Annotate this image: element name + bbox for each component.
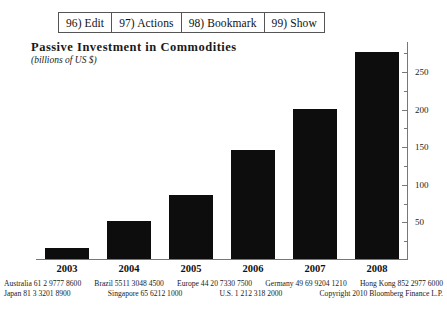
y-tick-label: 150 <box>415 142 429 152</box>
y-tick-minor <box>404 128 408 129</box>
y-tick-label: 100 <box>415 180 429 190</box>
y-axis-line <box>407 42 408 260</box>
bloomberg-chart-screen: 96) Edit 97) Actions 98) Bookmark 99) Sh… <box>0 0 447 310</box>
x-axis-line <box>36 259 408 260</box>
bar-2008 <box>355 52 399 259</box>
y-tick-major <box>402 72 408 73</box>
footer-contact: Singapore 65 6212 1000 <box>108 289 182 299</box>
y-tick-minor <box>404 53 408 54</box>
footer-contact: Hong Kong 852 2977 6000 <box>360 279 443 289</box>
bar-2004 <box>107 221 151 259</box>
footer-contact: U.S. 1 212 318 2000 <box>219 289 282 299</box>
y-tick-major <box>402 222 408 223</box>
footer-contact: Copyright 2010 Bloomberg Finance L.P. <box>320 289 443 299</box>
bar-2007 <box>293 109 337 259</box>
x-tick-label-2006: 2006 <box>222 263 284 274</box>
x-tick-label-2003: 2003 <box>36 263 98 274</box>
footer-line-2: Japan 81 3 3201 8900Singapore 65 6212 10… <box>0 289 447 299</box>
toolbar: 96) Edit 97) Actions 98) Bookmark 99) Sh… <box>58 12 325 33</box>
x-tick-label-2007: 2007 <box>284 263 346 274</box>
footer-contact: Brazil 5511 3048 4500 <box>94 279 164 289</box>
footer-line-1: Australia 61 2 9777 8600Brazil 5511 3048… <box>0 279 447 289</box>
footer-contact: Japan 81 3 3201 8900 <box>4 289 71 299</box>
toolbar-item-show[interactable]: 99) Show <box>265 13 324 32</box>
y-tick-major <box>402 185 408 186</box>
y-tick-minor <box>404 241 408 242</box>
chart-plot-area <box>36 42 408 260</box>
y-tick-major <box>402 110 408 111</box>
y-tick-label: 200 <box>415 105 429 115</box>
toolbar-item-actions[interactable]: 97) Actions <box>112 13 181 32</box>
x-tick-label-2004: 2004 <box>98 263 160 274</box>
toolbar-item-bookmark[interactable]: 98) Bookmark <box>182 13 265 32</box>
y-tick-major <box>402 147 408 148</box>
bar-2006 <box>231 150 275 259</box>
bar-2005 <box>169 195 213 259</box>
footer-contact: Europe 44 20 7330 7500 <box>177 279 252 289</box>
y-tick-label: 250 <box>415 67 429 77</box>
x-tick-label-2008: 2008 <box>346 263 408 274</box>
y-tick-minor <box>404 166 408 167</box>
x-tick-label-2005: 2005 <box>160 263 222 274</box>
y-tick-minor <box>404 91 408 92</box>
bar-2003 <box>45 248 89 259</box>
y-tick-label: 50 <box>415 217 424 227</box>
y-tick-minor <box>404 204 408 205</box>
footer-contact: Germany 49 69 9204 1210 <box>265 279 346 289</box>
footer: Australia 61 2 9777 8600Brazil 5511 3048… <box>0 279 447 299</box>
toolbar-item-edit[interactable]: 96) Edit <box>59 13 112 32</box>
footer-contact: Australia 61 2 9777 8600 <box>4 279 81 289</box>
